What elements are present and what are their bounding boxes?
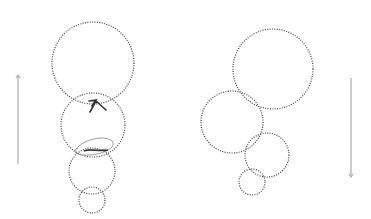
down-arrow-icon — [349, 78, 353, 177]
ellipse-scribble — [74, 138, 113, 155]
right-circle-1 — [233, 29, 313, 109]
right-circle-4 — [239, 169, 265, 195]
left-circle-2 — [61, 93, 125, 157]
right-circle-stack — [201, 29, 313, 195]
up-arrow-icon — [16, 75, 20, 164]
ellipse-scribble-dark — [84, 150, 108, 151]
right-circle-2 — [201, 91, 263, 153]
lambda-scribble-icon — [89, 100, 106, 112]
left-circle-1 — [52, 22, 134, 104]
left-circle-stack — [52, 22, 134, 213]
right-circle-3 — [245, 133, 289, 177]
left-circle-4 — [79, 187, 105, 213]
scribble-marks — [74, 100, 113, 155]
circles-diagram — [0, 0, 371, 219]
